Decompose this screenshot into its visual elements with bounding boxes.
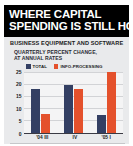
legend-label: INFO-PROCESSING — [60, 64, 102, 69]
y-tick-label: 15 — [16, 94, 22, 99]
y-tick-label: 5 — [19, 119, 22, 124]
bar-group — [64, 72, 83, 133]
legend-label: TOTAL — [33, 64, 47, 69]
subtitle-block: BUSINESS EQUIPMENT AND SOFTWARE QUARTERL… — [4, 37, 129, 61]
bar-total — [31, 89, 40, 133]
subtitle-main: BUSINESS EQUIPMENT AND SOFTWARE — [10, 40, 124, 47]
x-axis-labels: '04 IIIIV'05 I — [24, 135, 123, 142]
bar-total — [97, 115, 106, 132]
y-axis: 0510152025 — [10, 72, 23, 134]
title-line-1: WHERE CAPITAL — [9, 9, 124, 21]
x-tick-label: '04 III — [36, 135, 48, 142]
plot-panel — [24, 72, 123, 134]
legend-item-total: TOTAL — [26, 64, 47, 69]
y-tick-label: 10 — [16, 106, 22, 111]
y-tick-label: 25 — [16, 69, 22, 74]
legend-swatch-icon — [54, 64, 59, 69]
legend-swatch-icon — [26, 64, 31, 69]
title-line-2: SPENDING IS STILL HOT — [9, 21, 124, 33]
bar-group — [97, 72, 116, 133]
chart-card: WHERE CAPITAL SPENDING IS STILL HOT BUSI… — [4, 5, 129, 144]
title-banner: WHERE CAPITAL SPENDING IS STILL HOT — [4, 5, 129, 37]
bar-info-processing — [74, 89, 83, 133]
y-tick-label: 20 — [16, 81, 22, 86]
x-tick-label: IV — [73, 135, 78, 142]
x-tick-label: '05 I — [101, 135, 110, 142]
bar-info-processing — [107, 72, 116, 133]
bar-groups — [24, 72, 123, 133]
y-tick-label: 0 — [19, 131, 22, 136]
bar-group — [31, 72, 50, 133]
source-note: Data: Bureau of Economic Analysis, Globa… — [10, 143, 125, 144]
legend-item-info-processing: INFO-PROCESSING — [54, 64, 102, 69]
plot-area: 0510152025 — [10, 72, 123, 134]
bar-info-processing — [41, 114, 50, 132]
bar-total — [64, 85, 73, 133]
chart-legend: TOTALINFO-PROCESSING — [4, 61, 129, 71]
chart-figure: WHERE CAPITAL SPENDING IS STILL HOT BUSI… — [0, 0, 133, 146]
